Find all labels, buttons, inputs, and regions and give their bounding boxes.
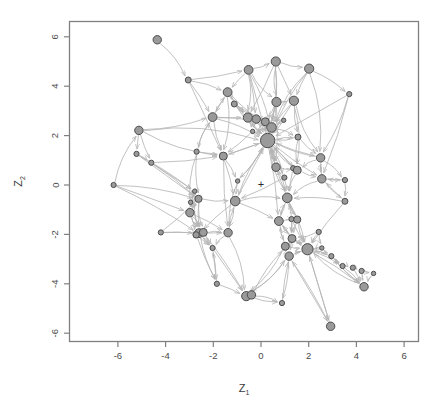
network-node [134, 151, 139, 156]
network-node [231, 101, 237, 107]
network-edge [281, 63, 303, 68]
y-tick-label: 6 [50, 34, 61, 39]
network-node [250, 129, 254, 133]
network-node [285, 252, 293, 260]
network-edge [310, 74, 321, 152]
network-node [195, 195, 202, 202]
network-edge [139, 156, 194, 196]
network-edge [328, 179, 342, 180]
network-edge [190, 83, 209, 112]
network-node [342, 198, 348, 204]
network-edge [192, 71, 242, 79]
network-node [224, 228, 232, 236]
network-node [193, 189, 197, 193]
network-node [282, 193, 292, 203]
network-node [316, 229, 321, 234]
network-node [316, 154, 324, 162]
network-edge [250, 261, 285, 293]
network-node [281, 118, 285, 122]
network-edge [356, 269, 357, 270]
network-node [252, 115, 260, 123]
network-node [295, 134, 301, 140]
network-edge [362, 274, 363, 280]
network-node [199, 228, 207, 236]
x-tick-label: 2 [306, 350, 311, 361]
network-node [260, 133, 274, 147]
network-node [360, 283, 368, 291]
origin-plus-icon: + [258, 178, 264, 190]
x-tick-label: 4 [354, 350, 359, 361]
network-node [219, 152, 227, 160]
y-tick-label: -6 [50, 329, 61, 337]
network-node [293, 166, 301, 174]
network-edge [323, 97, 348, 152]
network-node [194, 149, 199, 154]
y-tick-label: 0 [50, 182, 61, 187]
figure-canvas: + -6-4-202466420-2-4-6 Z1 Z2 [0, 0, 439, 408]
network-node [158, 230, 163, 235]
network-edge [232, 73, 245, 87]
network-node [214, 281, 219, 286]
network-node [185, 77, 191, 83]
network-node [359, 268, 364, 273]
network-edge [240, 203, 273, 218]
network-node [153, 36, 161, 44]
network-node [271, 57, 280, 66]
network-edge [216, 236, 225, 245]
network-node [272, 97, 281, 106]
network-edge [214, 122, 222, 150]
network-node [289, 96, 298, 105]
network-edge [224, 160, 233, 194]
network-node [347, 92, 352, 97]
y-tick-label: 4 [50, 84, 61, 89]
network-node [371, 271, 375, 275]
network-edge [154, 164, 191, 188]
network-edge [278, 66, 291, 94]
network-edge [290, 243, 291, 250]
network-edge [313, 71, 345, 91]
x-tick-label: -6 [114, 350, 122, 361]
network-node [318, 175, 326, 183]
network-edge [254, 251, 282, 291]
network-node [326, 322, 334, 330]
network-node [186, 208, 194, 216]
network-node [235, 179, 239, 183]
network-edges [115, 43, 372, 322]
network-edge [198, 123, 210, 149]
network-edge [143, 132, 217, 155]
network-node [149, 160, 154, 165]
network-edge [160, 43, 185, 75]
network-edge [250, 122, 252, 127]
y-axis-label: Z2 [12, 176, 26, 187]
network-edge [116, 187, 193, 230]
network-edge [293, 181, 317, 194]
network-node [210, 245, 215, 250]
network-edge [239, 148, 262, 179]
network-edge [283, 226, 289, 235]
x-tick-label: -2 [209, 350, 217, 361]
network-node [274, 217, 283, 226]
x-tick-label: 6 [401, 350, 406, 361]
network-edge [196, 155, 199, 193]
network-edge [292, 260, 328, 321]
network-edge [302, 172, 316, 177]
x-tick-label: 0 [258, 350, 263, 361]
network-edge [324, 161, 341, 177]
network-edge [310, 257, 330, 322]
y-tick-label: -2 [50, 230, 61, 238]
network-node [340, 263, 345, 268]
origin-marker: + [258, 178, 264, 190]
y-tick-label: 2 [50, 133, 61, 138]
latent-space-scatter-plot: + -6-4-202466420-2-4-6 Z1 Z2 [0, 0, 439, 408]
network-node [188, 200, 192, 204]
network-edge [220, 285, 240, 294]
network-node [111, 182, 116, 187]
network-edge [346, 266, 348, 267]
network-edge [117, 186, 184, 210]
network-edge [224, 97, 229, 150]
network-node [244, 66, 253, 75]
network-node [230, 196, 240, 206]
axis-ticks: -6-4-202466420-2-4-6 [50, 34, 407, 360]
network-edge [368, 276, 372, 282]
network-edge [250, 74, 269, 120]
